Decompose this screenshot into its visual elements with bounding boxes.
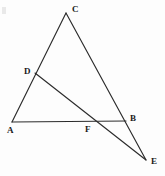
segment-side-AB [12, 121, 126, 122]
geometry-figure: A B C D E F [0, 0, 165, 176]
geometry-canvas [0, 0, 165, 176]
segment-group [12, 13, 146, 160]
vertex-label-E: E [151, 157, 157, 166]
vertex-label-C: C [72, 5, 79, 14]
vertex-label-F: F [85, 125, 91, 134]
vertex-label-D: D [24, 67, 31, 76]
vertex-label-A: A [7, 126, 14, 135]
vertex-label-B: B [130, 114, 136, 123]
segment-side-CE [66, 13, 146, 160]
segment-side-AC [12, 13, 66, 122]
